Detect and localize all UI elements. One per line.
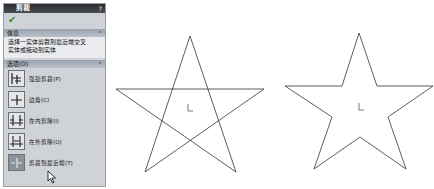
origin-marker-icon xyxy=(188,104,193,111)
star-outline-after-trim[interactable] xyxy=(285,33,433,169)
sketch-canvas[interactable] xyxy=(0,0,434,189)
origin-marker-icon xyxy=(359,103,364,110)
pentagram-before-trim[interactable] xyxy=(116,36,264,172)
